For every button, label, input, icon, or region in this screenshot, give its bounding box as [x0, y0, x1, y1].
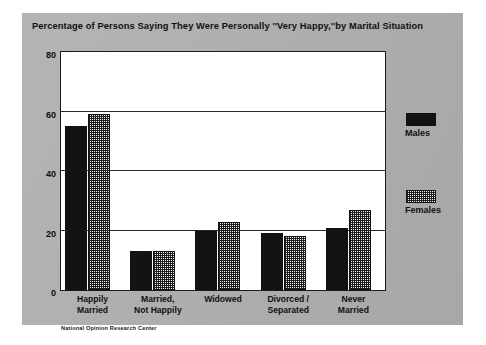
y-tick-label-60: 60	[32, 110, 56, 116]
y-tick-label-0: 0	[32, 288, 56, 294]
legend-entry-males: Males	[405, 113, 469, 138]
x-axis-label-line1: Never	[341, 294, 365, 304]
bar-group	[61, 52, 126, 290]
x-axis-label-line1: Widowed	[204, 294, 242, 304]
x-axis-label-line2: Not Happily	[120, 305, 196, 316]
x-axis-label-line1: Married,	[141, 294, 174, 304]
x-axis-label-line1: Divorced /	[267, 294, 309, 304]
legend-label-males: Males	[405, 128, 469, 138]
legend-entry-females: Females	[405, 190, 469, 215]
legend-swatch-females-icon	[406, 190, 436, 203]
plot-area	[60, 51, 386, 291]
bar-males-1	[65, 126, 87, 290]
x-axis-label-line2: Married	[315, 305, 391, 316]
legend-label-females: Females	[405, 205, 469, 215]
chart-title: Percentage of Persons Saying They Were P…	[32, 21, 457, 32]
bar-series-container	[61, 52, 385, 290]
bar-males-4	[261, 233, 283, 290]
bar-females-1	[88, 114, 110, 290]
bar-females-4	[284, 236, 306, 290]
x-axis-label-line1: Happily	[77, 294, 108, 304]
x-axis-category-labels: HappilyMarriedMarried,Not HappilyWidowed…	[60, 294, 386, 324]
bar-group	[191, 52, 256, 290]
bar-males-5	[326, 228, 348, 290]
bar-females-5	[349, 210, 371, 290]
bar-males-3	[195, 231, 217, 291]
chart-legend: Males Females	[405, 113, 469, 267]
chart-page: Percentage of Persons Saying They Were P…	[0, 0, 486, 345]
bar-females-2	[153, 251, 175, 290]
bar-females-3	[218, 222, 240, 290]
y-axis-tick-labels: 020406080	[30, 51, 56, 291]
bar-males-2	[130, 251, 152, 290]
bar-group	[322, 52, 387, 290]
bar-group	[126, 52, 191, 290]
legend-swatch-males-icon	[406, 113, 436, 126]
bar-group	[257, 52, 322, 290]
y-tick-label-80: 80	[32, 50, 56, 56]
y-tick-label-20: 20	[32, 229, 56, 235]
x-axis-label-5: NeverMarried	[315, 294, 391, 315]
chart-card: Percentage of Persons Saying They Were P…	[22, 13, 463, 325]
source-note: National Opinion Research Center	[61, 325, 157, 331]
y-tick-label-40: 40	[32, 169, 56, 175]
